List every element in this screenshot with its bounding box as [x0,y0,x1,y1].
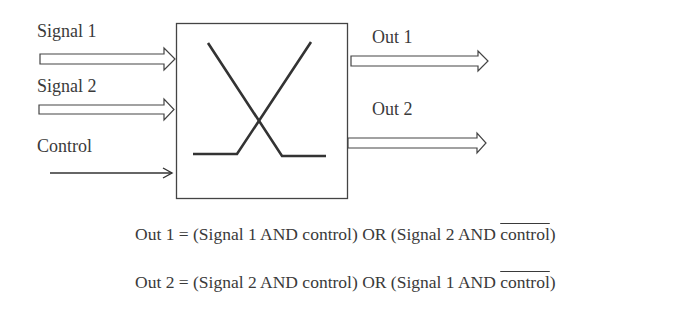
out1-label: Out 1 [372,28,413,46]
signal2-label: Signal 2 [37,77,97,95]
out2-label: Out 2 [372,100,413,118]
equation-out2-text: Out 2 = (Signal 2 AND control) OR (Signa… [135,272,500,292]
signal1-arrow [40,48,175,70]
equation-out2-suffix: ) [550,272,556,292]
equation-out1: Out 1 = (Signal 1 AND control) OR (Signa… [135,226,556,244]
switch-block [177,24,348,199]
equation-out1-suffix: ) [550,224,556,244]
switch-line-b [193,42,311,154]
switch-line-a [208,43,326,156]
out1-arrow [351,51,488,71]
equation-out2: Out 2 = (Signal 2 AND control) OR (Signa… [135,274,556,292]
signal2-arrow [39,99,174,120]
negated-control: control [500,224,550,244]
negated-control: control [500,272,550,292]
diagram-canvas [0,0,675,312]
out2-arrow [348,133,486,153]
control-label: Control [37,137,92,155]
signal1-label: Signal 1 [37,22,97,40]
equation-out1-text: Out 1 = (Signal 1 AND control) OR (Signa… [135,224,500,244]
